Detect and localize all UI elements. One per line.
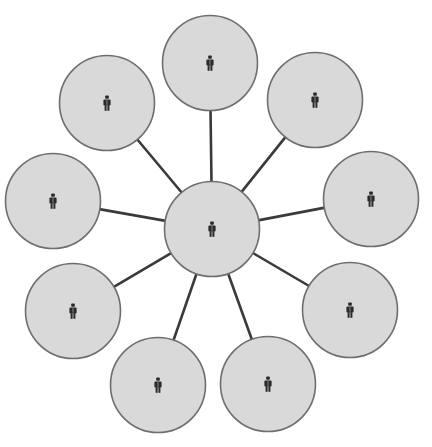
connection-line-top-left: [136, 138, 183, 194]
node-bottom-center-left[interactable]: [111, 338, 206, 433]
connection-line-bottom-left: [112, 252, 173, 288]
nodes: [6, 16, 419, 433]
connection-line-top: [211, 109, 212, 184]
node-bottom-left[interactable]: [26, 264, 121, 359]
connection-line-top-right: [240, 136, 286, 194]
node-top-right[interactable]: [268, 53, 363, 148]
node-right[interactable]: [324, 152, 419, 247]
connection-line-bottom-center-right: [228, 272, 253, 341]
connection-line-right: [257, 207, 327, 220]
connection-line-left: [98, 209, 167, 221]
network-diagram: [0, 0, 432, 447]
connection-line-bottom-right: [251, 252, 311, 287]
node-bottom-center-right[interactable]: [221, 337, 316, 432]
node-left[interactable]: [6, 154, 101, 249]
node-top[interactable]: [163, 16, 258, 111]
node-bottom-right[interactable]: [303, 263, 398, 358]
connection-line-bottom-center-left: [173, 272, 197, 342]
hub-node[interactable]: [165, 182, 260, 277]
node-top-left[interactable]: [60, 56, 155, 151]
